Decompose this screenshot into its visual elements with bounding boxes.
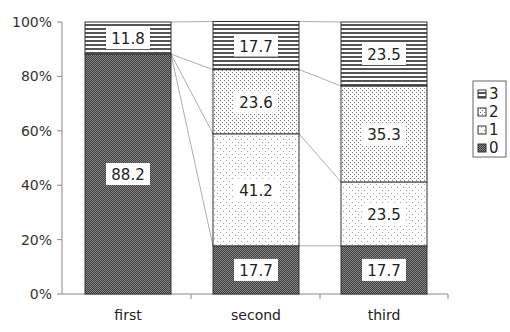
legend-swatch-icon: [478, 90, 486, 98]
x-category-label: third: [368, 307, 401, 323]
y-tick-label: 100%: [12, 14, 52, 30]
data-label: 17.7: [367, 262, 400, 280]
stacked-bar-chart: 0%20%40%60%80%100%firstsecondthird 88.21…: [0, 0, 510, 332]
data-label: 35.3: [367, 126, 400, 144]
data-label: 17.7: [239, 262, 272, 280]
data-label: 23.5: [367, 46, 400, 64]
data-label: 23.5: [367, 206, 400, 224]
legend-swatch-icon: [478, 126, 486, 134]
legend-swatch-icon: [478, 108, 486, 116]
y-tick-label: 80%: [21, 68, 52, 84]
legend-swatch-icon: [478, 144, 486, 152]
y-tick-label: 0%: [30, 286, 52, 302]
legend-label: 1: [489, 121, 499, 139]
data-label: 17.7: [239, 38, 272, 56]
x-category-label: first: [114, 307, 142, 323]
data-label: 23.6: [239, 94, 272, 112]
legend: 3210: [473, 81, 506, 157]
legend-label: 2: [489, 103, 499, 121]
data-label: 88.2: [111, 166, 144, 184]
legend-label: 3: [489, 85, 499, 103]
y-tick-label: 20%: [21, 232, 52, 248]
data-label: 41.2: [239, 182, 272, 200]
y-tick-label: 60%: [21, 123, 52, 139]
y-tick-label: 40%: [21, 177, 52, 193]
data-label: 11.8: [111, 30, 144, 48]
legend-label: 0: [489, 139, 499, 157]
x-category-label: second: [231, 307, 281, 323]
